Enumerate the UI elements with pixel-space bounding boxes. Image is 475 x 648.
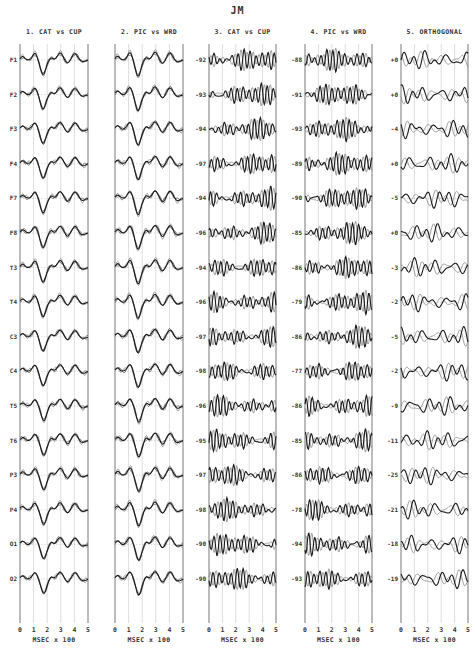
panel-title: 4. PIC vs WRD [310, 28, 366, 36]
waveform-condition-a [115, 468, 183, 492]
panel-title: 5. ORTHOGONAL [406, 28, 462, 36]
waveform-condition-a [20, 330, 88, 351]
waveform-condition-a [20, 192, 88, 213]
row-value-label: -2 [391, 367, 399, 374]
row-value-label: -78 [291, 506, 302, 513]
row-value-label: -97 [195, 160, 206, 167]
erp-figure: 1. CAT vs CUP012345MSEC x 100F1F2F3F4F7F… [0, 0, 475, 648]
waveform-condition-a [115, 191, 183, 215]
row-value-label: -5 [391, 333, 399, 340]
waveform-discriminant-a [209, 154, 276, 173]
channel-label: O2 [10, 575, 18, 582]
row-value-label: -90 [195, 575, 206, 582]
row-value-label: -86 [291, 264, 302, 271]
waveform-condition-b [20, 467, 88, 492]
waveform-discriminant-a [209, 395, 276, 416]
x-tick-label: 2 [140, 626, 144, 634]
waveform-orthogonal-b [401, 88, 468, 104]
waveform-orthogonal-a [401, 51, 468, 69]
row-value-label: -96 [195, 229, 206, 236]
x-tick-label: 4 [453, 626, 457, 634]
x-tick-label: 0 [303, 626, 307, 634]
x-tick-label: 2 [45, 626, 49, 634]
row-value-label: -98 [195, 506, 206, 513]
x-tick-label: 5 [466, 626, 470, 634]
waveform-condition-a [20, 88, 88, 109]
channel-label: T3 [10, 264, 18, 271]
waveform-condition-a [20, 295, 88, 317]
row-value-label: -2 [391, 298, 399, 305]
x-tick-label: 5 [370, 626, 374, 634]
channel-label: F2 [10, 91, 18, 98]
row-value-label: -97 [195, 471, 206, 478]
panel-title: 2. PIC vs WRD [121, 28, 177, 36]
waveform-condition-b [20, 536, 88, 558]
waveform-discriminant-a [209, 429, 276, 451]
row-value-label: -94 [195, 125, 206, 132]
row-value-label: -18 [387, 540, 398, 547]
waveform-condition-c [20, 87, 88, 108]
x-tick-label: 1 [316, 626, 320, 634]
waveform-discriminant-a [209, 260, 276, 277]
row-value-label: -3 [391, 264, 399, 271]
waveform-condition-c [20, 295, 88, 315]
panel-title: 1. CAT vs CUP [26, 28, 82, 36]
waveform-orthogonal-a [401, 258, 468, 276]
channel-label: F7 [10, 194, 18, 201]
row-value-label: -96 [195, 298, 206, 305]
waveform-discriminant-a [209, 292, 276, 313]
waveform-condition-a [20, 538, 88, 559]
channel-label: F3 [10, 125, 18, 132]
channel-label: T5 [10, 402, 18, 409]
waveform-discriminant-b [209, 430, 276, 452]
channel-label: P4 [10, 506, 18, 513]
waveform-discriminant-a [305, 293, 372, 315]
x-tick-label: 1 [32, 626, 36, 634]
row-value-label: -86 [291, 402, 302, 409]
row-value-label: -96 [195, 402, 206, 409]
x-tick-label: 4 [261, 626, 265, 634]
row-value-label: -93 [291, 125, 302, 132]
row-value-label: -86 [291, 471, 302, 478]
channel-label: C4 [10, 367, 18, 374]
waveform-orthogonal-b [401, 397, 468, 413]
row-value-label: -93 [195, 91, 206, 98]
x-tick-label: 5 [86, 626, 90, 634]
row-value-label: +0 [391, 229, 399, 236]
waveform-discriminant-a [209, 535, 276, 556]
waveform-condition-a [20, 261, 88, 283]
row-value-label: -19 [387, 575, 398, 582]
row-value-label: -95 [195, 437, 206, 444]
waveform-orthogonal-a [401, 431, 468, 449]
x-tick-label: 1 [412, 626, 416, 634]
waveform-discriminant-a [209, 118, 276, 140]
waveform-condition-a [20, 226, 88, 247]
x-axis-label: MSEC x 100 [221, 636, 264, 644]
waveform-discriminant-a [209, 362, 276, 380]
row-value-label: -85 [291, 437, 302, 444]
row-value-label: -86 [291, 333, 302, 340]
waveform-condition-a [115, 433, 183, 457]
x-tick-label: 3 [59, 626, 63, 634]
row-value-label: -94 [291, 540, 302, 547]
row-value-label: +0 [391, 56, 399, 63]
x-tick-label: 0 [207, 626, 211, 634]
row-value-label: -21 [387, 506, 398, 513]
waveform-condition-b [20, 500, 88, 525]
x-tick-label: 3 [343, 626, 347, 634]
waveform-orthogonal-a [401, 154, 468, 172]
x-tick-label: 0 [399, 626, 403, 634]
x-tick-label: 1 [220, 626, 224, 634]
waveform-condition-a [115, 226, 183, 250]
row-value-label: -9 [391, 402, 399, 409]
waveform-discriminant-a [305, 120, 372, 142]
row-value-label: -88 [291, 56, 302, 63]
waveform-condition-b [115, 499, 183, 527]
channel-label: T4 [10, 298, 18, 305]
waveform-orthogonal-b [401, 51, 468, 67]
x-tick-label: 3 [439, 626, 443, 634]
row-value-label: -89 [291, 160, 302, 167]
x-axis-label: MSEC x 100 [127, 636, 170, 644]
row-value-label: -5 [391, 194, 399, 201]
row-value-label: -77 [291, 367, 302, 374]
